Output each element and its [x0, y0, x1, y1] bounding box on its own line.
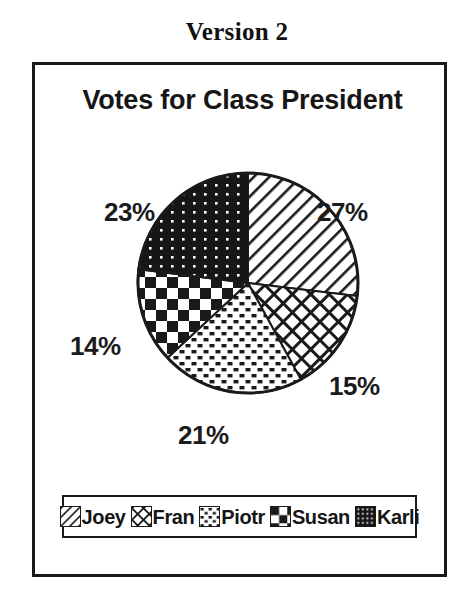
legend-label-fran: Fran	[153, 507, 195, 527]
legend-item-susan: Susan	[270, 506, 350, 527]
pie-label-susan: 14%	[70, 331, 121, 362]
pie-label-fran: 15%	[329, 371, 380, 402]
karli-swatch-icon	[355, 506, 376, 527]
legend-label-karli: Karli	[377, 507, 419, 527]
fran-swatch-icon	[131, 506, 152, 527]
susan-swatch-icon	[270, 506, 291, 527]
chart-title: Votes for Class President	[35, 85, 450, 116]
legend-label-joey: Joey	[82, 507, 126, 527]
chart-page: Version 2 Votes for Class President	[0, 0, 474, 605]
pie-label-joey: 27%	[317, 197, 368, 228]
pie-label-piotr: 21%	[178, 420, 229, 451]
piotr-swatch-icon	[199, 506, 220, 527]
legend-label-piotr: Piotr	[221, 507, 265, 527]
pie-slice-joey	[248, 173, 358, 296]
legend-item-karli: Karli	[355, 506, 419, 527]
version-caption: Version 2	[0, 18, 474, 46]
pie-label-karli: 23%	[104, 197, 155, 228]
pie-slice-karli	[138, 173, 248, 283]
joey-swatch-icon	[60, 506, 81, 527]
legend-items: Joey Fran Piotr	[60, 506, 420, 527]
legend-item-fran: Fran	[131, 506, 195, 527]
pie-plot-area: 27% 15% 21% 14% 23%	[35, 145, 450, 475]
chart-frame: Votes for Class President	[32, 62, 447, 577]
legend-item-joey: Joey	[60, 506, 126, 527]
legend-item-piotr: Piotr	[199, 506, 265, 527]
pie-chart-svg	[35, 145, 450, 475]
legend: Joey Fran Piotr	[62, 495, 417, 538]
legend-label-susan: Susan	[292, 507, 350, 527]
